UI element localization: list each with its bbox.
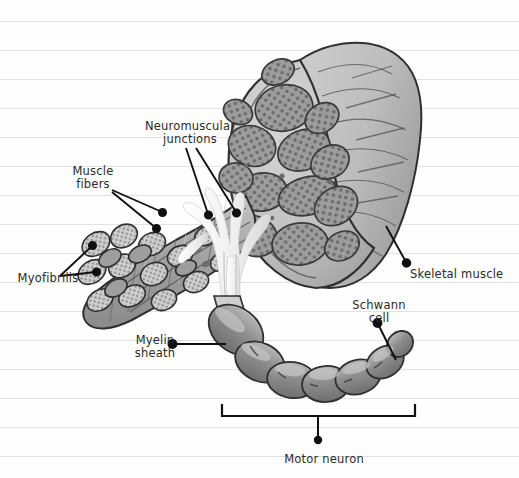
- label-motor-neuron: Motor neuron: [276, 453, 372, 466]
- notebook-page: · · · · ·: [0, 0, 519, 478]
- label-neuromuscular-junctions: Neuromuscular junctions: [135, 120, 245, 146]
- motor-neuron-bracket-dot: [314, 436, 322, 444]
- label-schwann-cell: Schwann cell: [348, 299, 410, 325]
- motor-neuron-bracket: [222, 404, 415, 438]
- neuromuscular-junction-diagram: [0, 0, 519, 478]
- label-muscle-fibers: Muscle fibers: [62, 165, 124, 191]
- label-myofibrilis: Myofibrilis: [10, 272, 86, 285]
- label-myelin-sheath: Myelin sheath: [126, 334, 184, 360]
- label-skeletal-muscle: Skeletal muscle: [410, 268, 514, 281]
